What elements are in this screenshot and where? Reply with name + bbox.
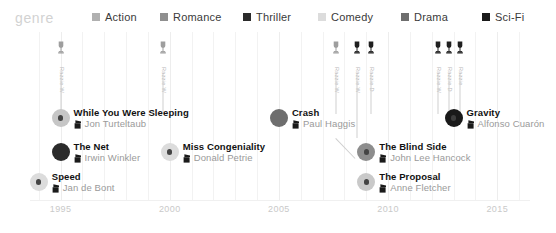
legend-item-sci-fi[interactable]: Sci-Fi: [482, 11, 524, 23]
movie-director-name: Alfonso Cuarón: [478, 118, 545, 130]
trophy-icon: [435, 41, 442, 54]
plot-area: 19952000200520102015 Razzie WRazzie WRaz…: [0, 32, 556, 233]
movie-title: While You Were Sleeping: [74, 107, 189, 118]
movie-director-name: Donald Petrie: [194, 152, 253, 164]
minor-gridline: [257, 32, 258, 200]
award-marker[interactable]: Razzie D: [365, 40, 377, 144]
movie-dot-core: [167, 149, 172, 154]
director-icon: [379, 184, 387, 193]
movie-title: The Net: [74, 141, 141, 152]
movie-director: Jon Turteltaub: [74, 118, 189, 130]
movie-director: Donald Petrie: [183, 152, 265, 164]
movie-director-name: Anne Fletcher: [390, 182, 450, 194]
award-trophy: [58, 40, 65, 58]
award-marker[interactable]: Razzie W: [55, 40, 67, 144]
x-tick-label: 2005: [268, 204, 290, 214]
x-tick-label: 1995: [50, 204, 72, 214]
legend: genre ActionRomanceThrillerComedyDramaSc…: [0, 0, 556, 32]
award-stem: [438, 74, 439, 114]
award-trophy: [333, 40, 340, 58]
movie-director-name: Jon Turteltaub: [85, 118, 147, 130]
legend-swatch-icon: [243, 13, 251, 21]
award-stem: [449, 74, 450, 114]
legend-item-drama[interactable]: Drama: [401, 11, 448, 23]
movie-director-name: John Lee Hancock: [390, 152, 470, 164]
movie-director: Paul Haggis: [292, 118, 355, 130]
director-icon: [183, 154, 191, 163]
movie-dot-core: [58, 115, 63, 120]
director-icon: [292, 120, 300, 129]
award-trophy: [446, 40, 453, 58]
movie-label: The NetIrwin Winkler: [74, 141, 141, 164]
movie-title: Miss Congeniality: [183, 141, 265, 152]
trophy-icon: [368, 41, 375, 54]
movie-label: The Blind SideJohn Lee Hancock: [379, 141, 470, 164]
trophy-icon: [446, 41, 453, 54]
movie-label: GravityAlfonso Cuarón: [467, 107, 545, 130]
award-stem: [460, 74, 461, 114]
movie-title: Crash: [292, 107, 355, 118]
director-icon: [74, 120, 82, 129]
award-trophy: [160, 40, 167, 58]
legend-item-label: Drama: [414, 11, 448, 23]
legend-item-comedy[interactable]: Comedy: [318, 11, 373, 23]
x-axis-line: [30, 200, 530, 201]
movie-director: Jan de Bont: [52, 182, 115, 194]
legend-swatch-icon: [92, 13, 100, 21]
movie-director-name: Jan de Bont: [63, 182, 115, 194]
movie-label: The ProposalAnne Fletcher: [379, 171, 450, 194]
legend-title: genre: [15, 10, 54, 26]
trophy-icon: [160, 41, 167, 54]
movie-director: Anne Fletcher: [379, 182, 450, 194]
trophy-icon: [333, 41, 340, 54]
movie-title: Speed: [52, 171, 115, 182]
legend-item-action[interactable]: Action: [92, 11, 137, 23]
movie-label: While You Were SleepingJon Turteltaub: [74, 107, 189, 130]
award-trophy: [435, 40, 442, 58]
minor-gridline: [235, 32, 236, 200]
minor-gridline: [213, 32, 214, 200]
trophy-icon: [457, 41, 464, 54]
movie-label: CrashPaul Haggis: [292, 107, 355, 130]
legend-swatch-icon: [482, 13, 490, 21]
legend-swatch-icon: [401, 13, 409, 21]
movie-dot-core: [364, 179, 369, 184]
movie-director-name: Paul Haggis: [303, 118, 355, 130]
director-icon: [74, 154, 82, 163]
movie-director-name: Irwin Winkler: [85, 152, 141, 164]
legend-item-thriller[interactable]: Thriller: [243, 11, 291, 23]
movie-timeline-chart: genre ActionRomanceThrillerComedyDramaSc…: [0, 0, 556, 233]
trophy-icon: [58, 41, 65, 54]
x-tick-label: 2015: [486, 204, 508, 214]
director-icon: [379, 154, 387, 163]
award-trophy: [354, 40, 361, 58]
legend-swatch-icon: [318, 13, 326, 21]
legend-item-label: Romance: [173, 11, 221, 23]
legend-item-label: Comedy: [331, 11, 373, 23]
movie-dot-core: [364, 149, 369, 154]
movie-dot-halo: [270, 109, 288, 127]
movie-dot-core: [451, 115, 456, 120]
legend-item-label: Thriller: [256, 11, 291, 23]
director-icon: [467, 120, 475, 129]
director-icon: [52, 184, 60, 193]
legend-swatch-icon: [160, 13, 168, 21]
x-tick-label: 2000: [159, 204, 181, 214]
award-marker[interactable]: Razzie: [454, 40, 466, 144]
award-stem: [357, 74, 358, 138]
x-tick-label: 2010: [377, 204, 399, 214]
award-stem: [61, 74, 62, 114]
award-trophy: [457, 40, 464, 58]
movie-director: Irwin Winkler: [74, 152, 141, 164]
award-stem: [371, 74, 372, 114]
movie-director: John Lee Hancock: [379, 152, 470, 164]
award-trophy: [368, 40, 375, 58]
minor-gridline: [192, 32, 193, 200]
trophy-icon: [354, 41, 361, 54]
movie-dot-core: [36, 179, 41, 184]
movie-label: Miss CongenialityDonald Petrie: [183, 141, 265, 164]
movie-title: The Blind Side: [379, 141, 470, 152]
legend-item-label: Action: [105, 11, 137, 23]
movie-director: Alfonso Cuarón: [467, 118, 545, 130]
legend-item-romance[interactable]: Romance: [160, 11, 221, 23]
